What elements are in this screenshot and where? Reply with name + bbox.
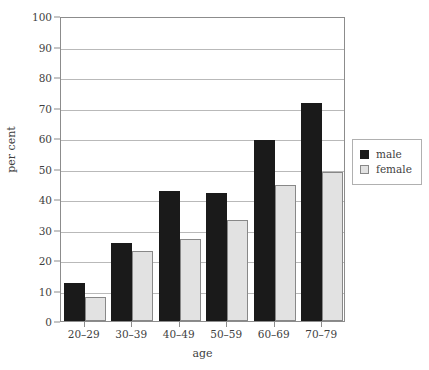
y-axis-tick-label: 70 [39, 103, 52, 114]
y-axis-tick-label: 50 [39, 164, 52, 175]
x-axis-tick-label: 70–79 [305, 329, 337, 340]
bar-male-50-59 [206, 193, 227, 321]
y-axis-tick-label: 90 [39, 42, 52, 53]
bar-group [111, 18, 153, 321]
x-axis-tick-mark [226, 322, 227, 327]
legend-rows: malefemale [360, 147, 415, 177]
x-axis-tick-mark [274, 322, 275, 327]
y-axis-tick-label: 0 [45, 317, 52, 328]
bar-female-20-29 [85, 297, 106, 321]
bar-group [159, 18, 201, 321]
bar-male-70-79 [301, 103, 322, 321]
bar-male-40-49 [159, 191, 180, 321]
bar-female-60-69 [275, 185, 296, 321]
y-axis-tick-label: 10 [39, 286, 52, 297]
x-axis-tick-label: 40–49 [163, 329, 195, 340]
bar-group [64, 18, 106, 321]
x-axis-tick-label: 30–39 [115, 329, 147, 340]
x-axis-tick-label: 20–29 [68, 329, 100, 340]
y-axis-tick-label: 30 [39, 225, 52, 236]
legend-label: female [376, 164, 412, 175]
bar-group [254, 18, 296, 321]
bar-female-50-59 [227, 220, 248, 321]
y-axis-tick-label: 80 [39, 73, 52, 84]
x-axis-tick-mark [84, 322, 85, 327]
bar-female-40-49 [180, 239, 201, 321]
x-axis-tick-label: 50–59 [210, 329, 242, 340]
bar-male-20-29 [64, 283, 85, 321]
y-axis-tick-label: 40 [39, 195, 52, 206]
y-axis: 0102030405060708090100 [0, 0, 60, 370]
x-axis-tick-mark [179, 322, 180, 327]
plot-area [60, 17, 345, 322]
y-axis-title: per cent [5, 115, 18, 185]
legend-swatch-male-icon [360, 150, 369, 159]
bar-female-30-39 [132, 251, 153, 321]
x-axis-tick-mark [131, 322, 132, 327]
x-axis-tick-mark [321, 322, 322, 327]
bar-group [301, 18, 343, 321]
bar-group [206, 18, 248, 321]
bar-chart-figure: 0102030405060708090100 per cent 20–2930–… [0, 0, 429, 370]
legend-item-female: female [360, 162, 415, 177]
y-axis-tick-label: 20 [39, 256, 52, 267]
y-axis-tick-label: 100 [32, 12, 52, 23]
x-axis-title: age [60, 347, 345, 360]
legend: malefemale [352, 139, 422, 185]
bar-female-70-79 [322, 172, 343, 321]
bar-male-60-69 [254, 140, 275, 321]
legend-swatch-female-icon [360, 165, 369, 174]
y-axis-tick-label: 60 [39, 134, 52, 145]
x-axis-tick-label: 60–69 [258, 329, 290, 340]
legend-label: male [376, 149, 402, 160]
legend-item-male: male [360, 147, 415, 162]
bar-male-30-39 [111, 243, 132, 321]
